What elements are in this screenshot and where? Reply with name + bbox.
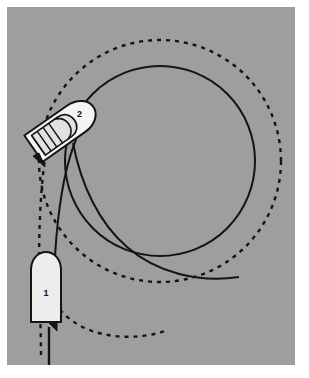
diagram-panel: 1 2 [7, 7, 295, 365]
inner-circle-entry-solid-path [73, 143, 239, 279]
turning-circle-diagram: 1 2 [7, 7, 295, 365]
boat-2[interactable]: 2 [24, 94, 102, 162]
outer-turning-circle-path [39, 40, 281, 282]
figure-caption [7, 366, 295, 378]
figure-root: 1 2 [0, 0, 309, 378]
boat-2-label: 2 [77, 109, 82, 119]
inner-turning-circle-path [65, 66, 255, 256]
boat-1[interactable]: 1 [31, 252, 61, 322]
boat-1-label: 1 [43, 288, 48, 298]
boat-1-hull [31, 252, 61, 322]
